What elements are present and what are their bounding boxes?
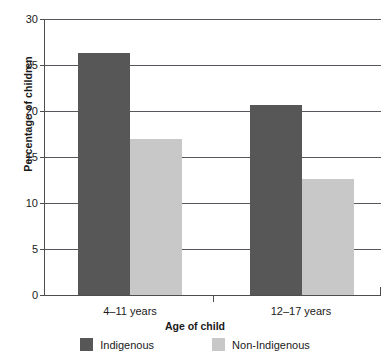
axis-right-cap: [380, 287, 381, 296]
legend-label: Indigenous: [100, 339, 154, 351]
y-tick-label: 10: [26, 197, 38, 209]
y-tick-label: 0: [32, 289, 38, 301]
plot-area: 051015202530 4–11 years12–17 years: [45, 19, 381, 295]
chart-legend: IndigenousNon-Indigenous: [0, 338, 390, 351]
bar-indigenous-0: [78, 53, 130, 295]
y-tick-mark: [40, 65, 45, 66]
y-tick-label: 15: [26, 151, 38, 163]
y-tick-mark: [40, 157, 45, 158]
legend-swatch-icon: [80, 338, 93, 351]
bar-non-indigenous-0: [130, 139, 182, 295]
y-tick-label: 25: [26, 59, 38, 71]
legend-label: Non-Indigenous: [232, 339, 310, 351]
x-tick-label: 4–11 years: [103, 305, 157, 317]
legend-item-indigenous: Indigenous: [80, 338, 154, 351]
y-tick-mark: [40, 295, 45, 296]
y-tick-label: 30: [26, 13, 38, 25]
y-tick-mark: [40, 111, 45, 112]
x-tick-label: 12–17 years: [271, 305, 332, 317]
bar-indigenous-1: [250, 105, 302, 295]
gridline: [45, 19, 381, 20]
legend-swatch-icon: [212, 338, 225, 351]
bar-non-indigenous-1: [302, 179, 354, 295]
legend-item-non-indigenous: Non-Indigenous: [212, 338, 310, 351]
y-tick-label: 20: [26, 105, 38, 117]
y-tick-mark: [40, 203, 45, 204]
y-tick-mark: [40, 19, 45, 20]
y-tick-label: 5: [32, 243, 38, 255]
y-tick-mark: [40, 249, 45, 250]
bar-chart: Percentage of children 051015202530 4–11…: [0, 0, 390, 360]
x-axis-title: Age of child: [0, 320, 390, 332]
x-tick-mark: [213, 296, 214, 302]
